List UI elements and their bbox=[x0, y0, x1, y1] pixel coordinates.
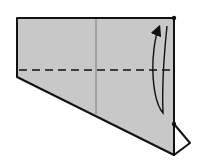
flap bbox=[174, 124, 190, 155]
reference-dot-bottom bbox=[172, 122, 176, 126]
reference-dot-top bbox=[172, 16, 176, 20]
origami-diagram bbox=[0, 0, 204, 164]
paper-shape bbox=[17, 18, 174, 155]
